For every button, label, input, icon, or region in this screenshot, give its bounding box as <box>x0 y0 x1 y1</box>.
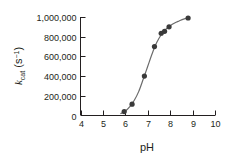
data-point <box>166 24 171 29</box>
x-tick-label: 6 <box>123 119 128 129</box>
chart-figure: 0200,000400,000600,000800,0001,000,000 4… <box>0 0 232 157</box>
y-tick-label: 0 <box>71 112 76 122</box>
data-point <box>152 44 157 49</box>
data-point <box>142 74 147 79</box>
x-tick-label: 8 <box>168 119 173 129</box>
y-axis-title-subscript: cat <box>19 71 26 80</box>
x-tick-label: 10 <box>210 119 220 129</box>
ph-rate-profile-chart: 0200,000400,000600,000800,0001,000,000 4… <box>0 0 232 157</box>
y-tick-label: 200,000 <box>44 92 77 102</box>
data-point <box>186 15 191 20</box>
y-axis-title-unit-close: ) <box>12 47 24 51</box>
data-point <box>122 109 127 114</box>
x-axis-title: pH <box>140 141 154 153</box>
x-tick-label: 5 <box>101 119 106 129</box>
x-tick-label: 7 <box>146 119 151 129</box>
y-tick-label: 1,000,000 <box>36 13 76 23</box>
y-axis-title-unit-open: (s <box>12 58 24 71</box>
x-tick-label: 4 <box>79 119 84 129</box>
y-axis-title-unit-superscript: −1 <box>13 51 20 59</box>
y-tick-label: 800,000 <box>44 33 77 43</box>
y-tick-label: 400,000 <box>44 72 77 82</box>
x-tick-label: 9 <box>191 119 196 129</box>
data-point <box>162 29 167 34</box>
data-point <box>129 102 134 107</box>
chart-background <box>0 0 232 157</box>
y-tick-label: 600,000 <box>44 52 77 62</box>
